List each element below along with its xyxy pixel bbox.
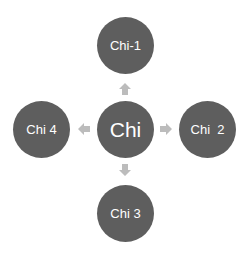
arrow-left-icon <box>78 123 90 135</box>
node-label: Chi 4 <box>26 122 56 137</box>
node-chi-4: Chi 4 <box>13 101 70 158</box>
node-label: Chi <box>110 118 142 142</box>
node-chi-3: Chi 3 <box>97 185 154 242</box>
arrow-down-icon <box>119 164 131 176</box>
node-label: Chi-1 <box>110 38 141 53</box>
node-label: Chi 2 <box>191 122 225 137</box>
node-chi-2: Chi 2 <box>179 101 236 158</box>
node-chi-1: Chi-1 <box>97 17 154 74</box>
arrow-right-icon <box>160 123 172 135</box>
node-label: Chi 3 <box>110 206 140 221</box>
node-chi-center: Chi <box>97 101 154 158</box>
arrow-up-icon <box>119 83 131 95</box>
radial-diagram: Chi-1 Chi Chi 4 Chi 2 Chi 3 <box>0 0 250 258</box>
